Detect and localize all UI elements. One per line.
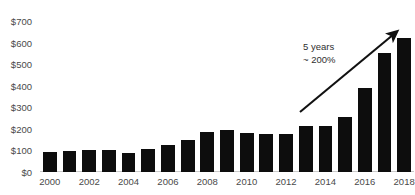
bar (200, 132, 214, 172)
x-tick-label: 2000 (39, 176, 60, 187)
bar (299, 126, 313, 172)
x-tick-label: 2002 (79, 176, 100, 187)
bar (220, 130, 234, 172)
y-axis-labels: $0$100$200$300$400$500$600$700 (0, 0, 36, 195)
x-tick-label: 2008 (197, 176, 218, 187)
bar (102, 150, 116, 172)
x-tick-label: 2018 (394, 176, 415, 187)
x-tick-label: 2012 (275, 176, 296, 187)
bar (161, 145, 175, 172)
bar (122, 153, 136, 172)
bar (141, 149, 155, 172)
bar (181, 140, 195, 172)
x-tick-label: 2014 (315, 176, 336, 187)
bar (319, 126, 333, 172)
y-tick-label: $200 (11, 123, 32, 134)
bar (338, 117, 352, 172)
chart-title-clipped (6, 0, 336, 2)
x-tick-label: 2016 (354, 176, 375, 187)
y-tick-label: $300 (11, 102, 32, 113)
bar (279, 134, 293, 172)
y-tick-label: $700 (11, 16, 32, 27)
y-tick-label: $400 (11, 80, 32, 91)
x-tick-label: 2004 (118, 176, 139, 187)
y-tick-label: $500 (11, 59, 32, 70)
x-tick-label: 2010 (236, 176, 257, 187)
bar (259, 134, 273, 172)
growth-callout-line2: ~ 200% (303, 54, 336, 66)
growth-callout-line1: 5 years (303, 41, 336, 53)
y-tick-label: $600 (11, 37, 32, 48)
y-tick-label: $0 (21, 167, 32, 178)
y-tick-label: $100 (11, 145, 32, 156)
x-axis-labels: 2000200220042006200820102012201420162018 (40, 176, 414, 192)
x-tick-label: 2006 (157, 176, 178, 187)
bar (43, 152, 57, 172)
bar (82, 150, 96, 172)
bar (240, 133, 254, 172)
bar (63, 151, 77, 172)
growth-callout: 5 years ~ 200% (303, 41, 336, 66)
